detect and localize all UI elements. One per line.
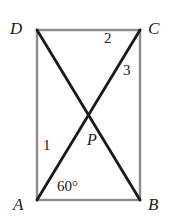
angle-label-3: 3 <box>123 63 131 78</box>
angle-label-1: 1 <box>43 138 51 153</box>
vertex-label-A: A <box>13 196 23 213</box>
geometry-figure: D C B A P 1 2 3 60° <box>0 0 177 223</box>
angle-label-2: 2 <box>104 31 112 46</box>
point-label-P: P <box>87 132 97 148</box>
vertex-label-D: D <box>10 20 22 37</box>
vertex-label-C: C <box>148 20 159 37</box>
angle-measure-60-degrees: 60° <box>57 179 78 194</box>
vertex-label-B: B <box>148 196 158 213</box>
